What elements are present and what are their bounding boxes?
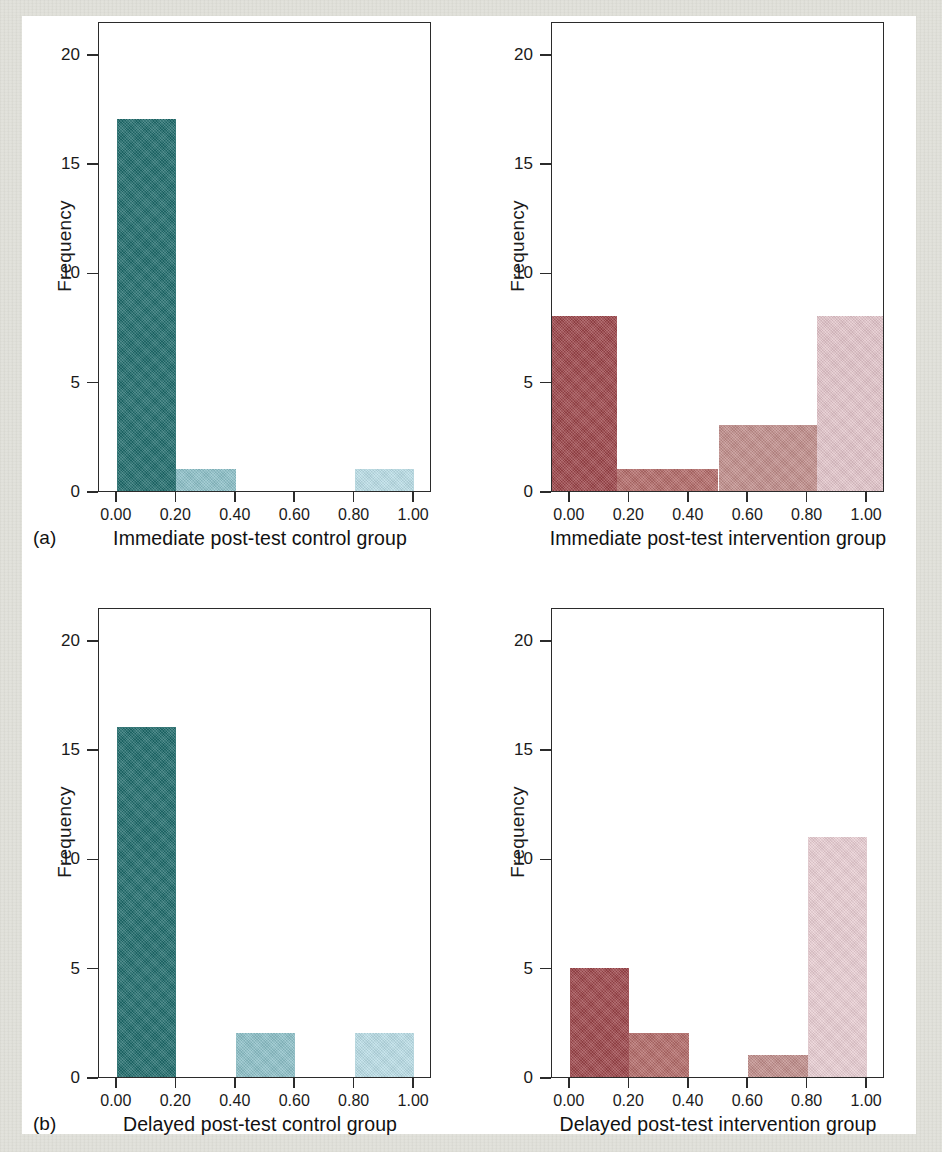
- y-tick-label: 0: [485, 1068, 533, 1088]
- y-tick-label: 5: [485, 373, 533, 393]
- x-tick-label: 0.40: [205, 506, 265, 524]
- x-tick-mark: [568, 1078, 570, 1088]
- x-tick-mark: [746, 492, 748, 502]
- y-tick-label: 20: [485, 631, 533, 651]
- x-tick-mark: [353, 492, 355, 502]
- chart-panel-immediate-intervention: Frequency 05101520 0.000.200.400.600.801…: [471, 0, 942, 576]
- x-tick-mark: [806, 1078, 808, 1088]
- x-axis-title: Delayed post-test control group: [60, 1113, 460, 1136]
- y-tick-label: 5: [485, 959, 533, 979]
- plot-frame: [98, 608, 431, 1078]
- x-tick-mark: [865, 492, 867, 502]
- x-axis-title: Delayed post-test intervention group: [498, 1113, 938, 1136]
- x-tick-mark: [687, 492, 689, 502]
- bars-layer: [552, 23, 883, 491]
- x-tick-label: 0.40: [658, 506, 718, 524]
- x-tick-label: 0.20: [145, 506, 205, 524]
- x-tick-mark: [175, 492, 177, 502]
- histogram-bar: [552, 316, 617, 491]
- x-tick-label: 1.00: [383, 1092, 443, 1110]
- y-tick-label: 0: [485, 482, 533, 502]
- x-tick-mark: [806, 492, 808, 502]
- x-tick-mark: [412, 492, 414, 502]
- y-tick-label: 15: [32, 740, 80, 760]
- panel-label-a: (a): [33, 527, 56, 549]
- bars-layer: [99, 23, 430, 491]
- bars-layer: [552, 609, 883, 1077]
- chart-panel-delayed-intervention: Frequency 05101520 0.000.200.400.600.801…: [471, 576, 942, 1152]
- y-tick-label: 20: [485, 45, 533, 65]
- y-tick-label: 15: [485, 154, 533, 174]
- y-tick-mark: [87, 968, 98, 970]
- x-tick-label: 0.80: [324, 506, 384, 524]
- y-tick-mark: [87, 859, 98, 861]
- chart-panel-immediate-control: Frequency 05101520 0.000.200.400.600.801…: [0, 0, 471, 576]
- bars-layer: [99, 609, 430, 1077]
- x-tick-mark: [746, 1078, 748, 1088]
- x-tick-label: 0.00: [539, 506, 599, 524]
- x-tick-mark: [293, 1078, 295, 1088]
- y-tick-label: 5: [32, 959, 80, 979]
- y-tick-label: 10: [485, 849, 533, 869]
- histogram-bar: [355, 469, 414, 491]
- plot-frame: [98, 22, 431, 492]
- x-tick-mark: [865, 1078, 867, 1088]
- y-tick-mark: [540, 1077, 551, 1079]
- histogram-bar: [117, 119, 176, 491]
- x-tick-mark: [234, 492, 236, 502]
- y-tick-mark: [540, 54, 551, 56]
- scanned-figure-page: Frequency 05101520 0.000.200.400.600.801…: [0, 0, 942, 1152]
- x-tick-label: 0.60: [717, 1092, 777, 1110]
- y-tick-mark: [540, 273, 551, 275]
- y-tick-label: 10: [32, 263, 80, 283]
- y-tick-mark: [540, 382, 551, 384]
- x-tick-label: 1.00: [836, 1092, 896, 1110]
- x-tick-label: 0.80: [777, 1092, 837, 1110]
- y-tick-mark: [540, 491, 551, 493]
- x-tick-label: 0.80: [324, 1092, 384, 1110]
- histogram-bar: [629, 1033, 688, 1077]
- y-tick-mark: [87, 54, 98, 56]
- y-tick-mark: [540, 968, 551, 970]
- y-axis-title: Frequency: [507, 762, 529, 902]
- y-tick-label: 5: [32, 373, 80, 393]
- x-tick-mark: [628, 1078, 630, 1088]
- x-tick-label: 0.60: [717, 506, 777, 524]
- y-tick-mark: [87, 1077, 98, 1079]
- plot-frame: [551, 608, 884, 1078]
- x-tick-mark: [175, 1078, 177, 1088]
- panel-label-b: (b): [33, 1113, 56, 1135]
- x-tick-mark: [687, 1078, 689, 1088]
- x-tick-label: 0.00: [86, 506, 146, 524]
- x-tick-label: 0.40: [658, 1092, 718, 1110]
- y-axis-title: Frequency: [507, 176, 529, 316]
- x-tick-label: 1.00: [383, 506, 443, 524]
- histogram-bar: [236, 1033, 295, 1077]
- x-axis-title: Immediate post-test intervention group: [498, 527, 938, 550]
- x-tick-mark: [293, 492, 295, 502]
- x-tick-mark: [234, 1078, 236, 1088]
- histogram-bar: [719, 425, 817, 491]
- y-tick-mark: [87, 163, 98, 165]
- y-tick-label: 10: [32, 849, 80, 869]
- histogram-bar: [808, 837, 867, 1077]
- y-tick-label: 20: [32, 631, 80, 651]
- y-tick-mark: [540, 749, 551, 751]
- y-tick-label: 0: [32, 482, 80, 502]
- y-tick-mark: [87, 640, 98, 642]
- histogram-bar: [617, 469, 718, 491]
- x-tick-mark: [115, 492, 117, 502]
- histogram-bar: [117, 727, 176, 1077]
- histogram-bar: [570, 968, 629, 1077]
- x-tick-label: 0.20: [598, 506, 658, 524]
- y-tick-mark: [87, 749, 98, 751]
- histogram-bar: [817, 316, 883, 491]
- x-tick-mark: [412, 1078, 414, 1088]
- y-tick-label: 10: [485, 263, 533, 283]
- y-tick-mark: [87, 491, 98, 493]
- y-tick-mark: [540, 640, 551, 642]
- x-tick-label: 1.00: [836, 506, 896, 524]
- x-tick-label: 0.20: [145, 1092, 205, 1110]
- x-tick-mark: [115, 1078, 117, 1088]
- y-tick-mark: [540, 859, 551, 861]
